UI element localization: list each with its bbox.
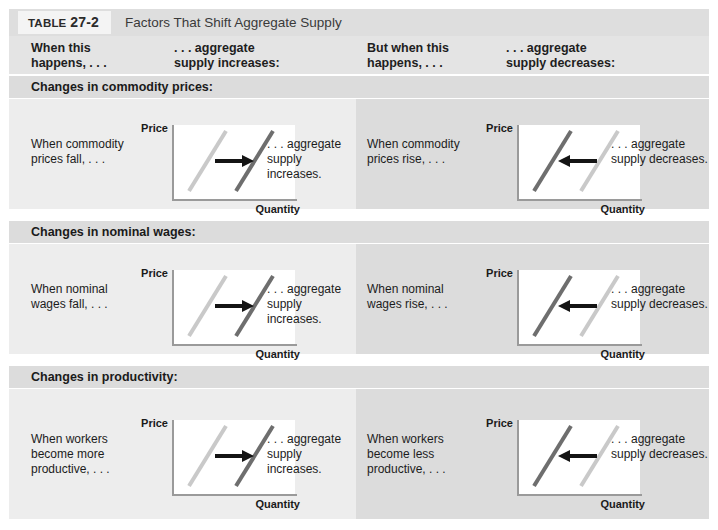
x-axis-line [517,494,642,496]
panel-decrease: When nominal wages rise, . . . Price Qua… [356,244,709,354]
section-header: Changes in nominal wages: [9,221,709,244]
table-title: Factors That Shift Aggregate Supply [125,15,342,30]
section-body: When nominal wages fall, . . . Price Qua… [9,244,709,354]
effect-text: . . . aggregate supply increases. [267,282,356,327]
cause-text: When nominal wages rise, . . . [367,282,448,312]
panel-decrease: When commodity prices rise, . . . Price … [356,99,709,209]
x-axis-label: Quantity [583,348,645,360]
column-header-when-this-happens: When this happens, . . . [31,41,107,70]
y-axis-label: Price [469,417,513,429]
x-axis-label: Quantity [238,203,300,215]
section-heading-label: Changes in commodity prices: [31,80,213,94]
table-27-2: TABLE 27-2 Factors That Shift Aggregate … [9,9,709,517]
effect-text: . . . aggregate supply increases. [267,432,356,477]
shift-arrow-right [215,450,254,462]
section-commodity-prices: Changes in commodity prices: When commod… [9,76,709,209]
y-axis-label: Price [469,122,513,134]
shift-arrow-right [215,300,254,312]
panel-increase: When workers become more productive, . .… [9,389,356,519]
y-axis-label: Price [469,267,513,279]
shift-arrow-left [558,300,597,312]
cause-text: When workers become less productive, . .… [367,432,446,477]
x-axis-label: Quantity [238,348,300,360]
column-header-supply-increases: . . . aggregate supply increases: [174,41,280,70]
table-word: TABLE [28,17,66,29]
section-heading-label: Changes in productivity: [31,370,178,384]
x-axis-line [172,199,297,201]
x-axis-line [172,344,297,346]
column-header-row: When this happens, . . . . . . aggregate… [9,36,709,76]
section-nominal-wages: Changes in nominal wages: When nominal w… [9,221,709,354]
x-axis-label: Quantity [583,498,645,510]
section-body: When commodity prices fall, . . . Price … [9,99,709,209]
effect-text: . . . aggregate supply decreases. [611,282,708,312]
effect-text: . . . aggregate supply decreases. [611,432,708,462]
table-number-badge: TABLE 27-2 [18,11,111,35]
cause-text: When workers become more productive, . .… [31,432,110,477]
x-axis-label: Quantity [583,203,645,215]
y-axis-label: Price [124,417,168,429]
shift-arrow-left [558,450,597,462]
panel-increase: When commodity prices fall, . . . Price … [9,99,356,209]
table-number: 27-2 [70,14,99,30]
cause-text: When nominal wages fall, . . . [31,282,108,312]
effect-text: . . . aggregate supply increases. [267,137,356,182]
column-header-supply-decreases: . . . aggregate supply decreases: [506,41,615,70]
section-productivity: Changes in productivity: When workers be… [9,366,709,519]
x-axis-label: Quantity [238,498,300,510]
x-axis-line [517,344,642,346]
section-header: Changes in commodity prices: [9,76,709,99]
shift-arrow-right [215,155,254,167]
y-axis-label: Price [124,267,168,279]
x-axis-line [517,199,642,201]
section-heading-label: Changes in nominal wages: [31,225,196,239]
table-title-bar: TABLE 27-2 Factors That Shift Aggregate … [9,9,709,36]
cause-text: When commodity prices rise, . . . [367,137,460,167]
effect-text: . . . aggregate supply decreases. [611,137,708,167]
panel-decrease: When workers become less productive, . .… [356,389,709,519]
shift-arrow-left [558,155,597,167]
cause-text: When commodity prices fall, . . . [31,137,124,167]
y-axis-label: Price [124,122,168,134]
x-axis-line [172,494,297,496]
column-header-but-when-this-happens: But when this happens, . . . [367,41,449,70]
section-header: Changes in productivity: [9,366,709,389]
section-body: When workers become more productive, . .… [9,389,709,519]
panel-increase: When nominal wages fall, . . . Price Qua… [9,244,356,354]
